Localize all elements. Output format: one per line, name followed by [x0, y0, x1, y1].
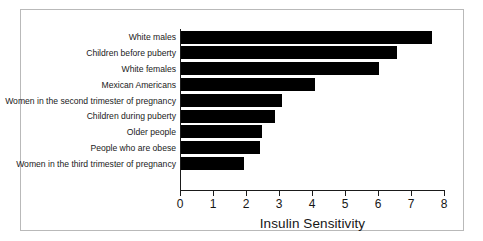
bar-category-label: Children before puberty	[86, 48, 176, 58]
bar-category-label: Older people	[127, 127, 176, 137]
bar	[181, 78, 315, 91]
bar-row: Women in the second trimester of pregnan…	[0, 93, 483, 109]
x-tick-label: 5	[333, 197, 357, 211]
bar-category-label: Mexican Americans	[101, 80, 176, 90]
x-tick-mark	[180, 191, 181, 196]
x-tick-label: 0	[168, 197, 192, 211]
bar	[181, 141, 260, 154]
x-tick-mark	[279, 191, 280, 196]
bar-row: Mexican Americans	[0, 77, 483, 93]
bar-row: People who are obese	[0, 140, 483, 156]
bar-row: Older people	[0, 124, 483, 140]
bar-category-label: White males	[129, 32, 176, 42]
x-tick-mark	[213, 191, 214, 196]
bar	[181, 62, 379, 75]
bar	[181, 46, 397, 59]
bar-category-label: Women in the second trimester of pregnan…	[5, 96, 176, 106]
x-axis-title: Insulin Sensitivity	[180, 216, 445, 231]
x-tick-mark	[345, 191, 346, 196]
bar	[181, 157, 244, 170]
y-axis-spine	[180, 29, 181, 191]
x-tick-label: 4	[300, 197, 324, 211]
bar-row: White females	[0, 61, 483, 77]
bar	[181, 94, 282, 107]
bar	[181, 125, 262, 138]
x-tick-mark	[444, 191, 445, 196]
bar-row: White males	[0, 30, 483, 46]
x-tick-mark	[411, 191, 412, 196]
x-tick-label: 6	[366, 197, 390, 211]
x-tick-mark	[378, 191, 379, 196]
bar	[181, 110, 275, 123]
x-tick-label: 1	[201, 197, 225, 211]
x-tick-label: 8	[432, 197, 456, 211]
bar-category-label: White females	[122, 64, 176, 74]
bar-row: Women in the third trimester of pregnanc…	[0, 156, 483, 172]
bar	[181, 31, 432, 44]
bar-row: Children before puberty	[0, 45, 483, 61]
chart-figure: White malesChildren before pubertyWhite …	[0, 0, 483, 241]
x-tick-label: 2	[234, 197, 258, 211]
bar-category-label: People who are obese	[90, 143, 176, 153]
x-tick-mark	[246, 191, 247, 196]
bar-row: Children during puberty	[0, 109, 483, 125]
x-tick-mark	[312, 191, 313, 196]
bar-category-label: Women in the third trimester of pregnanc…	[16, 159, 176, 169]
x-tick-label: 3	[267, 197, 291, 211]
bar-category-label: Children during puberty	[87, 111, 176, 121]
bar-chart-plot: White malesChildren before pubertyWhite …	[0, 0, 483, 241]
x-tick-label: 7	[399, 197, 423, 211]
plot-bottom-spacer	[181, 172, 445, 190]
